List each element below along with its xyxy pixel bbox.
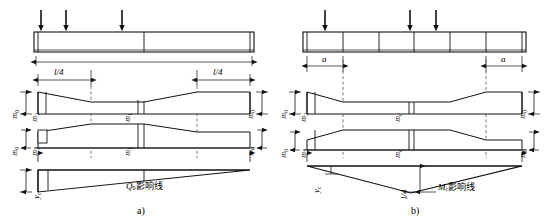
panel-b-beam (303, 32, 526, 52)
panel-a-ordinate-m2-left-upper: m2 (31, 113, 40, 122)
panel-b-ordinate-mc-center-upper: mc (394, 113, 403, 121)
panel-b-ordinate-mc-center-lower: mc (394, 149, 403, 157)
panel-a-dim-left-label: l/4 (54, 68, 64, 77)
panel-b-caption: b) (411, 206, 419, 216)
panel-a-caption: a) (137, 206, 145, 216)
panel-a-end-ticks (38, 153, 250, 162)
panel-b-ordinate-m0-right-lower: m0 (519, 149, 528, 158)
panel-a-lower-strip (34, 124, 254, 148)
panel-a-ordinate-m0-left-lower: m0 (11, 147, 20, 156)
panel-b-end-ticks (307, 153, 522, 162)
panel-a-ordinate-m0-right-upper: m0 (247, 110, 256, 119)
panel-a-load-arrows (41, 10, 122, 28)
influence-line-figure: l/4 l/4 m0 m2 m1 m0 m0 m2 m1 m0 yc Q0影响线… (0, 0, 545, 222)
panel-a-graphics (20, 10, 268, 192)
panel-b-load-arrows (325, 10, 436, 28)
panel-b-a-dimensions (307, 56, 522, 72)
panel-b-lower-strip (303, 130, 526, 150)
panel-b-dim-left-label: a (322, 55, 327, 64)
panel-a-span-dimension (36, 56, 252, 66)
panel-a-ordinate-m1-center-upper: m1 (124, 113, 133, 122)
panel-a-upper-strip (38, 92, 250, 114)
panel-a-ordinate-m1-center-lower: m1 (124, 147, 133, 156)
panel-a-ordinate-m0-left-upper: m0 (11, 110, 20, 119)
panel-b-influence-suffix: 影响线 (448, 182, 475, 192)
panel-b-ordinate-yc: yc (313, 187, 322, 193)
panel-b-ordinate-m2-left-upper: m2 (300, 113, 309, 122)
panel-b-ordinate-m2-left-lower: m2 (300, 149, 309, 158)
panel-a-ordinate-yc: yc (33, 193, 42, 199)
panel-b-influence-diagram (307, 166, 522, 193)
panel-b-dim-right-label: a (501, 55, 506, 64)
panel-a-yc-ordinate (20, 170, 32, 192)
panel-b-ordinate-m0-left-upper: m0 (280, 110, 289, 119)
panel-b-influence-symbol: M (438, 182, 446, 192)
panel-a-influence-line-title: Q0影响线 (126, 182, 163, 191)
panel-b-ordinate-m0-right-upper: m0 (519, 110, 528, 119)
panel-a-dim-right-label: l/4 (213, 68, 223, 77)
panel-a-influence-suffix: 影响线 (136, 181, 163, 191)
panel-b-upper-strip (307, 92, 522, 114)
panel-a-ordinate-m2-left-lower: m2 (31, 147, 40, 156)
panel-a-beam (34, 32, 254, 52)
panel-b-peak-label: l/4 (400, 189, 409, 199)
panel-a-ordinate-m0-right-lower: m0 (247, 147, 256, 156)
panel-b-ordinate-m0-left-lower: m0 (280, 149, 289, 158)
panel-b-influence-line-title: Mc影响线 (438, 183, 475, 192)
panel-b-graphics (289, 10, 540, 193)
